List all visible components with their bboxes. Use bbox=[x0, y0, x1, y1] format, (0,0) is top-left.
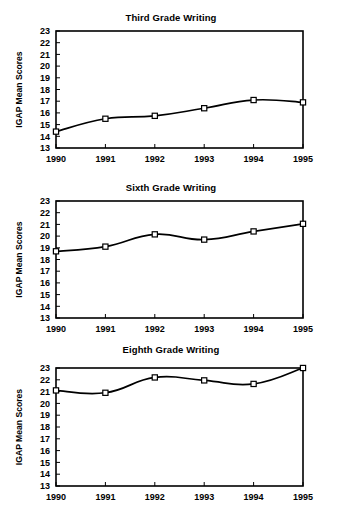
plot-area-frame bbox=[56, 368, 303, 486]
series-line bbox=[56, 368, 303, 394]
y-tick-label: 17 bbox=[40, 434, 50, 444]
y-tick-label: 15 bbox=[40, 120, 50, 130]
x-tick-label: 1991 bbox=[95, 492, 115, 502]
data-point-marker bbox=[53, 129, 58, 134]
chart-block-sixth-grade: Sixth Grade Writing 13141516171819202122… bbox=[0, 170, 342, 340]
data-point-marker bbox=[103, 390, 108, 395]
data-point-marker bbox=[152, 113, 157, 118]
y-tick-label: 17 bbox=[40, 266, 50, 276]
chart-svg-third-grade: 1314151617181920212223199019911992199319… bbox=[0, 0, 342, 170]
y-tick-label: 22 bbox=[40, 208, 50, 218]
y-tick-label: 18 bbox=[40, 422, 50, 432]
y-tick-label: 15 bbox=[40, 290, 50, 300]
plot-area-frame bbox=[56, 201, 303, 318]
y-tick-label: 23 bbox=[40, 26, 50, 36]
data-point-marker bbox=[53, 249, 58, 254]
y-tick-label: 21 bbox=[40, 387, 50, 397]
data-point-marker bbox=[251, 97, 256, 102]
data-point-marker bbox=[300, 100, 305, 105]
y-tick-label: 18 bbox=[40, 255, 50, 265]
y-tick-label: 16 bbox=[40, 278, 50, 288]
chart-block-eighth-grade: Eighth Grade Writing 1314151617181920212… bbox=[0, 340, 342, 526]
data-point-marker bbox=[202, 106, 207, 111]
chart-svg-sixth-grade: 1314151617181920212223199019911992199319… bbox=[0, 170, 342, 340]
x-tick-label: 1991 bbox=[95, 324, 115, 334]
x-tick-label: 1990 bbox=[46, 154, 66, 164]
y-tick-label: 19 bbox=[40, 73, 50, 83]
y-axis-title: IGAP Mean Scores bbox=[14, 389, 24, 465]
data-point-marker bbox=[300, 365, 305, 370]
x-tick-label: 1995 bbox=[293, 154, 313, 164]
y-tick-label: 23 bbox=[40, 363, 50, 373]
x-tick-label: 1990 bbox=[46, 324, 66, 334]
y-tick-label: 18 bbox=[40, 85, 50, 95]
series-line bbox=[56, 224, 303, 252]
y-tick-label: 21 bbox=[40, 50, 50, 60]
plot-area-frame bbox=[56, 31, 303, 148]
data-point-marker bbox=[53, 388, 58, 393]
data-point-marker bbox=[251, 229, 256, 234]
x-tick-label: 1993 bbox=[194, 492, 214, 502]
data-point-marker bbox=[152, 375, 157, 380]
chart-svg-eighth-grade: 1314151617181920212223199019911992199319… bbox=[0, 340, 342, 526]
y-axis-title: IGAP Mean Scores bbox=[14, 51, 24, 127]
y-tick-label: 23 bbox=[40, 196, 50, 206]
y-tick-label: 13 bbox=[40, 481, 50, 491]
x-tick-label: 1994 bbox=[244, 324, 264, 334]
y-tick-label: 13 bbox=[40, 313, 50, 323]
data-point-marker bbox=[152, 232, 157, 237]
y-tick-label: 22 bbox=[40, 38, 50, 48]
y-tick-label: 15 bbox=[40, 458, 50, 468]
y-tick-label: 19 bbox=[40, 243, 50, 253]
y-tick-label: 21 bbox=[40, 220, 50, 230]
x-tick-label: 1995 bbox=[293, 492, 313, 502]
chart-block-third-grade: Third Grade Writing 13141516171819202122… bbox=[0, 0, 342, 170]
x-tick-label: 1993 bbox=[194, 154, 214, 164]
y-tick-label: 20 bbox=[40, 61, 50, 71]
y-tick-label: 16 bbox=[40, 108, 50, 118]
data-point-marker bbox=[202, 237, 207, 242]
x-tick-label: 1995 bbox=[293, 324, 313, 334]
x-tick-label: 1993 bbox=[194, 324, 214, 334]
y-tick-label: 14 bbox=[40, 132, 50, 142]
y-tick-label: 17 bbox=[40, 96, 50, 106]
x-tick-label: 1994 bbox=[244, 154, 264, 164]
data-point-marker bbox=[103, 244, 108, 249]
y-tick-label: 14 bbox=[40, 469, 50, 479]
data-point-marker bbox=[300, 221, 305, 226]
data-point-marker bbox=[202, 378, 207, 383]
y-tick-label: 14 bbox=[40, 302, 50, 312]
x-tick-label: 1990 bbox=[46, 492, 66, 502]
x-tick-label: 1994 bbox=[244, 492, 264, 502]
y-tick-label: 16 bbox=[40, 446, 50, 456]
series-line bbox=[56, 100, 303, 132]
x-tick-label: 1992 bbox=[145, 154, 165, 164]
chart-page: Third Grade Writing 13141516171819202122… bbox=[0, 0, 342, 526]
y-tick-label: 13 bbox=[40, 143, 50, 153]
y-tick-label: 19 bbox=[40, 410, 50, 420]
data-point-marker bbox=[103, 116, 108, 121]
x-tick-label: 1991 bbox=[95, 154, 115, 164]
x-tick-label: 1992 bbox=[145, 492, 165, 502]
y-axis-title: IGAP Mean Scores bbox=[14, 221, 24, 297]
y-tick-label: 22 bbox=[40, 375, 50, 385]
x-tick-label: 1992 bbox=[145, 324, 165, 334]
y-tick-label: 20 bbox=[40, 399, 50, 409]
y-tick-label: 20 bbox=[40, 231, 50, 241]
data-point-marker bbox=[251, 381, 256, 386]
